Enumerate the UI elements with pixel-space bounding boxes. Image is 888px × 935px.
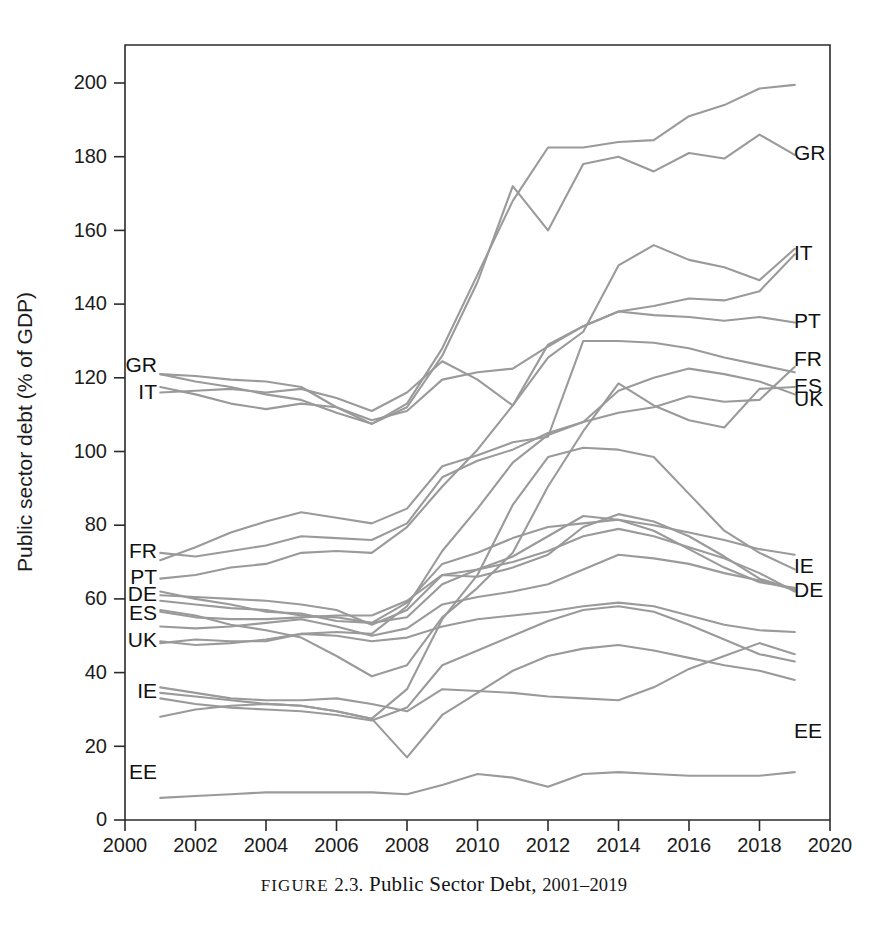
series-label-right-gr: GR: [794, 141, 826, 164]
y-tick-label: 120: [74, 366, 107, 388]
series-label-right-pt: PT: [794, 309, 821, 332]
y-axis-title: Public sector debt (% of GDP): [13, 292, 36, 572]
series-label-left-gr: GR: [126, 353, 158, 376]
x-tick-label: 2016: [667, 834, 712, 856]
y-tick-label: 100: [74, 440, 107, 462]
x-tick-label: 2014: [596, 834, 641, 856]
series-label-left-de: DE: [128, 582, 157, 605]
x-tick-label: 2012: [526, 834, 571, 856]
x-tick-label: 2010: [455, 834, 500, 856]
series-label-right-ie: IE: [794, 554, 814, 577]
series-line-fr: [160, 367, 795, 557]
y-tick-label: 20: [85, 735, 107, 757]
series-line-mid-a: [160, 520, 795, 623]
series-line-ie-b: [160, 643, 795, 711]
y-tick-label: 140: [74, 292, 107, 314]
x-tick-label: 2000: [103, 834, 148, 856]
y-tick-label: 0: [96, 808, 107, 830]
y-tick-label: 40: [85, 661, 107, 683]
series-label-left-uk: UK: [128, 628, 157, 651]
plot-border: [125, 45, 830, 820]
series-line-ie: [160, 448, 795, 719]
y-tick-label: 180: [74, 145, 107, 167]
series-line-mid-d: [160, 555, 795, 636]
x-tick-label: 2006: [314, 834, 359, 856]
series-label-right-it: IT: [794, 241, 813, 264]
series-label-left-fr: FR: [129, 539, 157, 562]
y-axis-ticks: 020406080100120140160180200: [74, 71, 125, 830]
y-tick-label: 200: [74, 71, 107, 93]
series-label-left-ie: IE: [137, 679, 157, 702]
x-tick-label: 2004: [244, 834, 289, 856]
series-label-left-it: IT: [138, 380, 157, 403]
figure-container: 020406080100120140160180200 200020022004…: [0, 0, 888, 935]
series-line-es: [160, 383, 795, 676]
caption-years: 2001–2019: [542, 875, 627, 895]
x-tick-label: 2020: [808, 834, 853, 856]
x-axis-ticks: 2000200220042006200820102012201420162018…: [103, 820, 853, 856]
x-tick-label: 2008: [385, 834, 430, 856]
y-tick-label: 60: [85, 587, 107, 609]
plot-frame: [125, 45, 830, 820]
series-label-left-ee: EE: [129, 760, 157, 783]
series-line-mid-e: [160, 645, 795, 757]
caption-title: Public Sector Debt,: [369, 872, 537, 896]
series-label-right-uk: UK: [794, 387, 823, 410]
x-tick-label: 2002: [173, 834, 218, 856]
series-label-right-ee: EE: [794, 719, 822, 742]
series-label-right-de: DE: [794, 578, 823, 601]
series-line-it-b: [160, 245, 795, 411]
caption-prefix: FIGURE: [261, 876, 329, 895]
y-tick-label: 80: [85, 513, 107, 535]
series-label-right-fr: FR: [794, 347, 822, 370]
series-lines: [160, 85, 795, 798]
x-tick-label: 2018: [737, 834, 782, 856]
series-line-ee: [160, 772, 795, 798]
line-chart: 020406080100120140160180200 200020022004…: [0, 0, 888, 870]
y-tick-label: 160: [74, 219, 107, 241]
figure-caption: FIGURE 2.3. Public Sector Debt, 2001–201…: [0, 872, 888, 897]
caption-number: 2.3.: [334, 874, 363, 895]
